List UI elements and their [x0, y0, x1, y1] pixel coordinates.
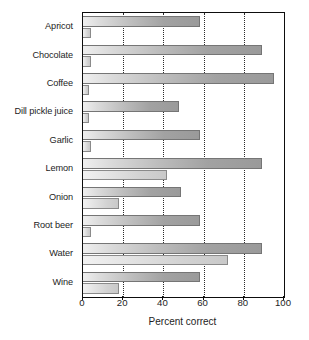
y-axis-category-labels: ApricotChocolateCoffeeDill pickle juiceG… [0, 12, 77, 296]
bar [83, 73, 274, 84]
x-tick-label-80: 80 [237, 297, 248, 309]
y-axis-label-water: Water [0, 248, 73, 258]
bar [83, 255, 228, 266]
bar [83, 158, 262, 169]
bar [83, 28, 91, 39]
bar [83, 170, 167, 181]
bar-group [83, 272, 284, 294]
bar [83, 130, 200, 141]
bar-group [83, 101, 284, 123]
x-tick-label-100: 100 [275, 297, 291, 309]
bar-group [83, 187, 284, 209]
x-tick-label-60: 60 [197, 297, 208, 309]
y-axis-label-root-beer: Root beer [0, 220, 73, 230]
x-tick-label-20: 20 [117, 297, 128, 309]
y-axis-label-wine: Wine [0, 277, 73, 287]
y-axis-label-onion: Onion [0, 192, 73, 202]
x-axis-tick-labels: 020406080100 [82, 297, 285, 313]
bar-group [83, 73, 284, 95]
bar [83, 56, 91, 67]
bar-group [83, 45, 284, 67]
bar [83, 85, 89, 96]
y-axis-label-chocolate: Chocolate [0, 50, 73, 60]
bar [83, 243, 262, 254]
bar-group [83, 16, 284, 38]
bar-group [83, 130, 284, 152]
bar-group [83, 158, 284, 180]
bar-group [83, 243, 284, 265]
bar [83, 215, 200, 226]
x-tick-label-40: 40 [157, 297, 168, 309]
bar [83, 101, 179, 112]
bar [83, 45, 262, 56]
bar [83, 272, 200, 283]
bar-group [83, 215, 284, 237]
bar-chart-figure: ApricotChocolateCoffeeDill pickle juiceG… [0, 0, 309, 340]
bar [83, 16, 200, 27]
bar [83, 141, 91, 152]
y-axis-label-apricot: Apricot [0, 21, 73, 31]
bar [83, 227, 91, 238]
x-tick-label-0: 0 [79, 297, 84, 309]
bar [83, 283, 119, 294]
plot-area [82, 12, 285, 298]
y-axis-label-coffee: Coffee [0, 78, 73, 88]
y-axis-label-lemon: Lemon [0, 163, 73, 173]
y-axis-label-garlic: Garlic [0, 135, 73, 145]
bar [83, 198, 119, 209]
y-axis-label-dill-pickle-juice: Dill pickle juice [0, 106, 73, 116]
bar [83, 113, 89, 124]
bar [83, 187, 181, 198]
x-axis-title: Percent correct [82, 316, 283, 327]
